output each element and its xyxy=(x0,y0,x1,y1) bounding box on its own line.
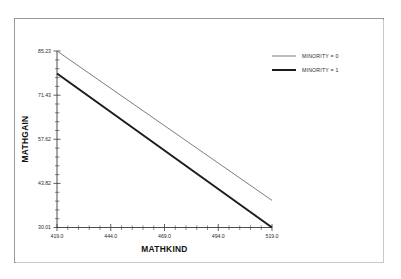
y-tick-label-3: 71.43 xyxy=(38,92,51,98)
y-tick-label-1: 43.82 xyxy=(38,180,51,186)
legend: MINORITY = 0 MINORITY = 1 xyxy=(272,53,338,73)
x-tick-label-0: 419.0 xyxy=(51,233,64,239)
series-line-minority-1 xyxy=(57,74,272,228)
series-line-minority-0 xyxy=(57,51,272,200)
y-tick-label-4: 85.23 xyxy=(38,48,51,54)
legend-label-minority-1: MINORITY = 1 xyxy=(302,67,338,73)
chart-figure: 30.01 43.82 57.62 71.43 85.23 419.0 444.… xyxy=(0,0,401,279)
line-chart: 30.01 43.82 57.62 71.43 85.23 419.0 444.… xyxy=(0,0,401,279)
x-tick-label-3: 494.0 xyxy=(212,233,225,239)
x-tick-label-4: 519.0 xyxy=(266,233,279,239)
x-tick-label-2: 469.0 xyxy=(158,233,171,239)
y-tick-label-0: 30.01 xyxy=(38,224,51,230)
x-axis-title: MATHKIND xyxy=(141,244,187,254)
legend-label-minority-0: MINORITY = 0 xyxy=(302,53,338,59)
y-tick-label-2: 57.62 xyxy=(38,136,51,142)
y-axis-title: MATHGAIN xyxy=(20,116,30,163)
x-tick-label-1: 444.0 xyxy=(104,233,117,239)
